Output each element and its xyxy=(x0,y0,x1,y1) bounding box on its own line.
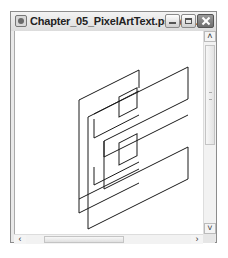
photoshop-document-icon[interactable] xyxy=(15,15,27,27)
horizontal-scroll-thumb[interactable] xyxy=(44,236,124,243)
letter-e-wireframe-art xyxy=(15,31,204,234)
document-window: Chapter_05_PixelArtText.psd @ ... xyxy=(10,11,217,243)
minimize-button[interactable] xyxy=(165,14,180,28)
vertical-scrollbar[interactable]: ˄ ˅ xyxy=(203,31,216,234)
scroll-right-button[interactable]: › xyxy=(191,235,203,244)
scroll-left-button[interactable]: ‹ xyxy=(14,235,26,244)
document-canvas[interactable] xyxy=(14,31,204,234)
title-bar[interactable]: Chapter_05_PixelArtText.psd @ ... xyxy=(11,12,216,31)
close-button[interactable] xyxy=(197,14,214,28)
horizontal-scrollbar[interactable]: ‹ › xyxy=(14,234,203,244)
vertical-scroll-thumb[interactable] xyxy=(205,45,215,145)
scroll-up-button[interactable]: ˄ xyxy=(204,31,216,42)
maximize-button[interactable] xyxy=(181,14,196,28)
scrollbar-corner xyxy=(203,234,215,243)
scroll-down-button[interactable]: ˅ xyxy=(204,223,216,234)
